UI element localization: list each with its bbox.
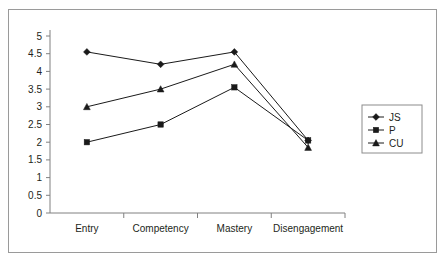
data-point-CU	[231, 61, 238, 67]
legend-marker-P	[373, 127, 378, 132]
x-category-label: Competency	[133, 223, 189, 234]
legend-label-JS: JS	[389, 112, 401, 123]
legend-label-CU: CU	[389, 138, 403, 149]
x-category-label: Mastery	[217, 223, 253, 234]
y-tick-label: 3.5	[28, 84, 42, 95]
y-tick-label: 0	[36, 208, 42, 219]
x-category-label: Disengagement	[273, 223, 343, 234]
y-tick-label: 2	[36, 137, 42, 148]
line-chart: 00.511.522.533.544.55EntryCompetencyMast…	[0, 0, 447, 262]
data-point-JS	[157, 61, 164, 68]
y-tick-label: 2.5	[28, 119, 42, 130]
legend-label-P: P	[389, 125, 396, 136]
x-category-label: Entry	[75, 223, 98, 234]
y-tick-label: 1.5	[28, 154, 42, 165]
data-point-P	[84, 140, 89, 145]
y-tick-label: 4	[36, 66, 42, 77]
y-tick-label: 1	[36, 172, 42, 183]
y-tick-label: 0.5	[28, 190, 42, 201]
data-point-JS	[83, 49, 90, 56]
data-point-P	[158, 122, 163, 127]
data-point-P	[305, 138, 310, 143]
series-line-P	[87, 87, 308, 142]
chart-figure: 00.511.522.533.544.55EntryCompetencyMast…	[0, 0, 447, 262]
series-line-JS	[87, 52, 308, 140]
data-point-P	[232, 85, 237, 90]
data-point-CU	[157, 86, 164, 92]
y-tick-label: 3	[36, 101, 42, 112]
y-tick-label: 4.5	[28, 48, 42, 59]
y-tick-label: 5	[36, 31, 42, 42]
